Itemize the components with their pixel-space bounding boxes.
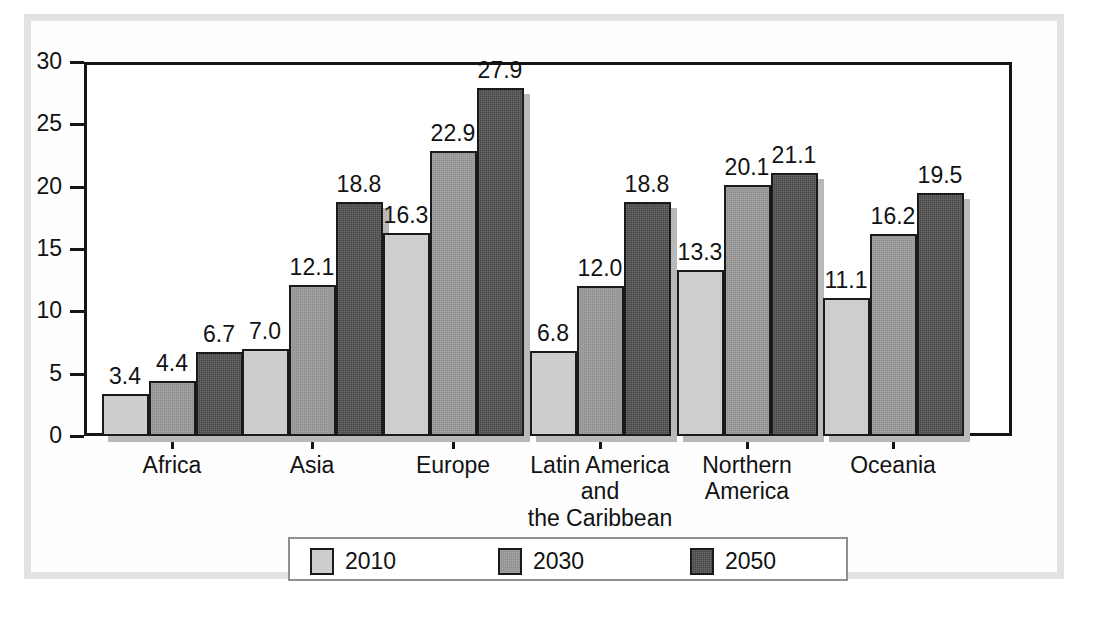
y-axis-tick <box>70 435 84 438</box>
y-axis-tick-label: 15 <box>18 237 62 260</box>
bar-group: 11.116.219.5 <box>823 62 964 436</box>
legend-item-2010[interactable]: 2010 <box>310 546 396 576</box>
x-axis-category-label: Oceania <box>773 452 1013 478</box>
bar-2030-asia[interactable] <box>289 285 336 436</box>
bar-group: 3.44.46.7 <box>102 62 243 436</box>
bar-value-label: 11.1 <box>807 269 886 292</box>
y-axis-tick-label: 25 <box>18 112 62 135</box>
y-axis-tick <box>70 123 84 126</box>
category-label-line: the Caribbean <box>480 505 720 531</box>
bar-slot: 18.8 <box>336 62 383 436</box>
bar-value-label: 19.5 <box>901 164 980 187</box>
bar-value-label: 12.0 <box>561 257 640 280</box>
bar-value-label: 16.3 <box>367 204 446 227</box>
bar-2030-europe[interactable] <box>430 151 477 436</box>
y-axis-tick <box>70 310 84 313</box>
y-axis-tick-label: 10 <box>18 299 62 322</box>
legend-swatch-icon <box>310 548 334 575</box>
bar-value-label: 27.9 <box>461 59 540 82</box>
y-axis-tick-label: 20 <box>18 175 62 198</box>
bar-slot: 16.2 <box>870 62 917 436</box>
legend-label: 2030 <box>533 550 584 573</box>
legend-item-2050[interactable]: 2050 <box>690 546 776 576</box>
legend-label: 2010 <box>345 550 396 573</box>
legend-swatch-icon <box>498 548 522 575</box>
y-axis-tick-label: 30 <box>18 50 62 73</box>
y-axis-tick <box>70 186 84 189</box>
bar-slot: 27.9 <box>477 62 524 436</box>
bar-value-label: 4.4 <box>133 352 212 375</box>
bar-2050-latin-america[interactable] <box>624 202 671 436</box>
y-axis-tick-label: 5 <box>18 362 62 385</box>
bar-value-label: 16.2 <box>854 205 933 228</box>
page-canvas: 051015202530 3.44.46.77.012.118.816.322.… <box>0 0 1095 625</box>
bar-2030-northern[interactable] <box>724 185 771 436</box>
legend-swatch-icon <box>690 548 714 575</box>
bar-slot: 11.1 <box>823 62 870 436</box>
bar-value-label: 7.0 <box>226 320 305 343</box>
bar-2030-latin-america[interactable] <box>577 286 624 436</box>
bar-2010-europe[interactable] <box>383 233 430 436</box>
bar-2010-asia[interactable] <box>242 349 289 436</box>
bar-2010-oceania[interactable] <box>823 298 870 436</box>
y-axis-tick <box>70 373 84 376</box>
bar-2010-latin-america[interactable] <box>530 351 577 436</box>
bar-group: 13.320.121.1 <box>677 62 818 436</box>
bar-2010-africa[interactable] <box>102 394 149 436</box>
category-label-line: America <box>627 478 867 504</box>
bar-group: 7.012.118.8 <box>242 62 383 436</box>
grouped-bar-chart: 051015202530 3.44.46.77.012.118.816.322.… <box>0 0 1095 625</box>
bar-slot: 6.8 <box>530 62 577 436</box>
bar-2050-northern[interactable] <box>771 173 818 436</box>
bar-value-label: 21.1 <box>755 144 834 167</box>
bar-group: 6.812.018.8 <box>530 62 671 436</box>
bar-value-label: 18.8 <box>320 173 399 196</box>
bar-2030-africa[interactable] <box>149 381 196 436</box>
bar-2030-oceania[interactable] <box>870 234 917 436</box>
legend-label: 2050 <box>725 550 776 573</box>
bar-value-label: 18.8 <box>608 173 687 196</box>
bar-slot: 16.3 <box>383 62 430 436</box>
bar-slot: 7.0 <box>242 62 289 436</box>
bar-value-label: 6.8 <box>514 322 593 345</box>
bar-slot: 22.9 <box>430 62 477 436</box>
bar-slot: 19.5 <box>917 62 964 436</box>
bar-slot: 13.3 <box>677 62 724 436</box>
bar-2050-asia[interactable] <box>336 202 383 436</box>
category-label-line: Oceania <box>773 452 1013 478</box>
bar-value-label: 12.1 <box>273 256 352 279</box>
y-axis-tick-label: 0 <box>18 424 62 447</box>
bar-slot: 12.0 <box>577 62 624 436</box>
bar-slot: 6.7 <box>196 62 243 436</box>
chart-legend: 201020302050 <box>288 537 848 581</box>
bar-group: 16.322.927.9 <box>383 62 524 436</box>
y-axis-tick <box>70 61 84 64</box>
legend-item-2030[interactable]: 2030 <box>498 546 584 576</box>
bar-slot: 3.4 <box>102 62 149 436</box>
bar-2050-oceania[interactable] <box>917 193 964 436</box>
bar-value-label: 13.3 <box>661 241 740 264</box>
bar-slot: 12.1 <box>289 62 336 436</box>
y-axis-tick <box>70 248 84 251</box>
bar-value-label: 22.9 <box>414 122 493 145</box>
bar-2010-northern[interactable] <box>677 270 724 436</box>
bar-slot: 21.1 <box>771 62 818 436</box>
